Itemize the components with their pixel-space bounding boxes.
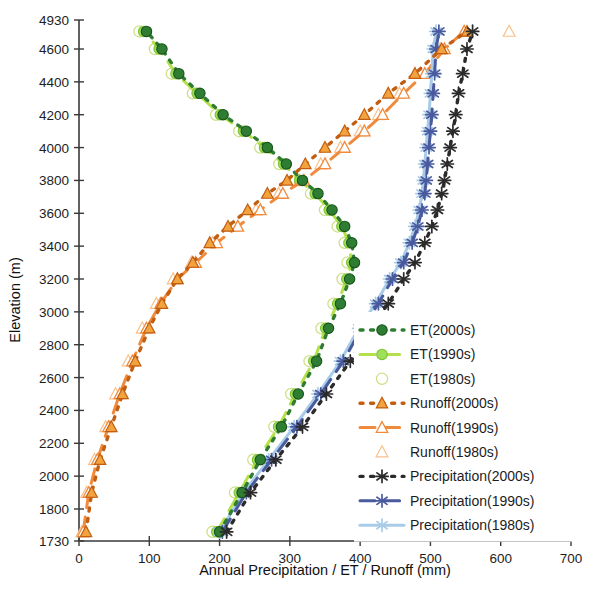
legend-label: ET(1990s) <box>410 346 475 362</box>
data-point-marker <box>323 323 333 333</box>
data-point-marker <box>174 68 184 78</box>
y-tick-label: 2000 <box>39 469 69 484</box>
x-tick-label: 700 <box>560 551 583 566</box>
data-point-marker <box>349 257 359 267</box>
data-point-marker <box>141 26 151 36</box>
legend-label: Runoff(2000s) <box>410 395 498 411</box>
data-point-marker <box>376 373 387 384</box>
y-tick-label: 2800 <box>39 338 69 353</box>
legend-label: ET(1980s) <box>410 371 475 387</box>
data-point-marker <box>438 174 450 186</box>
y-tick-label: 4930 <box>39 13 69 28</box>
elevation-hydrology-chart: 1730180020002200240026002800300032003400… <box>0 0 593 589</box>
data-point-marker <box>339 221 349 231</box>
data-point-marker <box>327 205 337 215</box>
series-et1980s <box>134 26 353 538</box>
data-point-marker <box>218 110 228 120</box>
y-tick-label: 4200 <box>39 108 69 123</box>
data-point-marker <box>339 125 350 136</box>
data-point-marker <box>444 141 456 153</box>
y-tick-label: 2600 <box>39 371 69 386</box>
data-point-marker <box>431 204 443 216</box>
legend-label: Precipitation(1980s) <box>410 517 535 533</box>
data-point-marker <box>311 356 321 366</box>
chart-canvas: 1730180020002200240026002800300032003400… <box>0 0 593 589</box>
data-point-marker <box>195 88 205 98</box>
x-tick-label: 100 <box>138 551 161 566</box>
data-point-marker <box>344 274 354 284</box>
y-tick-label: 2200 <box>39 436 69 451</box>
data-point-marker <box>457 67 469 79</box>
data-point-marker <box>262 142 272 152</box>
data-point-marker <box>293 389 303 399</box>
data-point-marker <box>409 256 421 268</box>
y-axis-title: Elevation (m) <box>7 257 23 342</box>
data-point-marker <box>276 422 286 432</box>
data-point-marker <box>281 159 291 169</box>
data-point-marker <box>297 175 307 185</box>
y-tick-label: 4600 <box>39 42 69 57</box>
y-tick-label: 4000 <box>39 141 69 156</box>
y-tick-label: 3400 <box>39 239 69 254</box>
data-point-marker <box>419 237 431 249</box>
legend: ET(2000s)ET(1990s)ET(1980s)Runoff(2000s)… <box>354 312 586 542</box>
y-tick-label: 3200 <box>39 272 69 287</box>
legend-label: Runoff(1980s) <box>410 444 498 460</box>
legend-label: Runoff(1990s) <box>410 420 498 436</box>
y-tick-label: 3800 <box>39 173 69 188</box>
data-point-marker <box>503 25 515 36</box>
legend-label: Precipitation(1990s) <box>410 493 535 509</box>
data-point-marker <box>335 298 345 308</box>
data-point-marker <box>241 126 251 136</box>
data-point-marker <box>377 325 387 335</box>
data-point-marker <box>435 187 447 199</box>
data-point-marker <box>461 43 473 55</box>
data-point-marker <box>450 109 462 121</box>
data-point-marker <box>300 158 311 169</box>
data-point-marker <box>313 188 323 198</box>
data-point-marker <box>347 238 357 248</box>
data-point-marker <box>452 87 464 99</box>
legend-label: Precipitation(2000s) <box>410 468 535 484</box>
y-tick-label: 1730 <box>39 534 69 549</box>
y-tick-label: 2400 <box>39 403 69 418</box>
x-tick-label: 600 <box>489 551 512 566</box>
data-point-marker <box>242 204 253 215</box>
data-point-marker <box>447 125 459 137</box>
y-tick-label: 3600 <box>39 206 69 221</box>
data-point-marker <box>426 220 438 232</box>
y-tick-label: 4400 <box>39 75 69 90</box>
data-point-marker <box>255 455 265 465</box>
data-point-marker <box>441 158 453 170</box>
legend-label: ET(2000s) <box>410 322 475 338</box>
data-point-marker <box>157 44 167 54</box>
data-point-marker <box>377 349 387 359</box>
x-axis-title: Annual Precipitation / ET / Runoff (mm) <box>199 562 451 578</box>
y-tick-label: 3000 <box>39 305 69 320</box>
x-tick-label: 0 <box>75 551 83 566</box>
y-tick-label: 1800 <box>39 502 69 517</box>
